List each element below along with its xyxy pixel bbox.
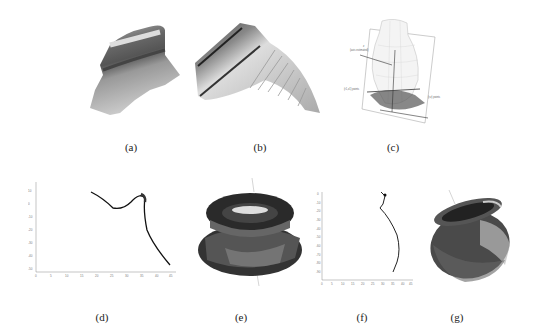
svg-text:-20: -20 <box>316 209 321 213</box>
svg-text:-40: -40 <box>28 254 33 258</box>
caption-b: (b) <box>240 141 280 153</box>
svg-text:25: 25 <box>110 274 114 278</box>
svg-text:45: 45 <box>409 282 413 286</box>
svg-text:20: 20 <box>361 282 365 286</box>
caption-c: (c) <box>373 141 413 153</box>
caption-g: (g) <box>437 311 477 323</box>
svg-text:-30: -30 <box>28 241 33 245</box>
svg-text:20: 20 <box>95 274 99 278</box>
svg-text:0: 0 <box>317 192 319 196</box>
sherd-a-image <box>85 10 185 125</box>
panel-b <box>190 18 330 118</box>
svg-text:35: 35 <box>140 274 144 278</box>
svg-text:-80: -80 <box>316 261 321 265</box>
svg-text:40: 40 <box>401 282 405 286</box>
svg-text:30: 30 <box>381 282 385 286</box>
svg-text:-50: -50 <box>28 267 33 271</box>
label-z: z <box>363 45 365 48</box>
svg-text:-60: -60 <box>316 244 321 248</box>
svg-text:40: 40 <box>155 274 159 278</box>
svg-text:30: 30 <box>125 274 129 278</box>
svg-text:0: 0 <box>321 282 323 286</box>
profile-chart-f: 0-10-20-30 -40-50-60-70 -80-90 051015 20… <box>315 190 415 290</box>
svg-text:15: 15 <box>80 274 84 278</box>
panel-f-chart: 0-10-20-30 -40-50-60-70 -80-90 051015 20… <box>315 190 415 290</box>
label-axis-estimated: (axis estimated) <box>350 48 368 52</box>
panel-d-chart: 100-10 -20-30-40-50 051015 20253035 4045 <box>28 180 178 280</box>
svg-text:10: 10 <box>28 189 32 193</box>
svg-text:15: 15 <box>351 282 355 286</box>
reconstructed-vessel-e <box>195 178 305 288</box>
reconstructed-pot-g <box>425 190 515 290</box>
svg-text:-10: -10 <box>316 201 321 205</box>
svg-text:-20: -20 <box>28 228 33 232</box>
svg-text:-40: -40 <box>316 227 321 231</box>
svg-text:0: 0 <box>35 274 37 278</box>
label-right-points: (r,z) points <box>428 95 441 99</box>
svg-text:-90: -90 <box>316 270 321 274</box>
profile-chart-d: 100-10 -20-30-40-50 051015 20253035 4045 <box>28 180 178 280</box>
caption-d: (d) <box>82 311 122 323</box>
svg-text:-70: -70 <box>316 253 321 257</box>
wireframe-diagram: z (axis estimated) (r1,z1) points (r,z) … <box>340 15 460 125</box>
caption-a: (a) <box>111 141 151 153</box>
panel-a <box>85 10 185 125</box>
svg-text:0: 0 <box>28 202 30 206</box>
svg-text:-30: -30 <box>316 218 321 222</box>
svg-text:-50: -50 <box>316 235 321 239</box>
svg-text:25: 25 <box>371 282 375 286</box>
svg-text:35: 35 <box>391 282 395 286</box>
svg-text:10: 10 <box>65 274 69 278</box>
svg-text:10: 10 <box>341 282 345 286</box>
panel-g <box>425 190 515 290</box>
caption-e: (e) <box>221 311 261 323</box>
caption-f: (f) <box>342 311 382 323</box>
panel-e <box>195 178 305 288</box>
label-left-points: (r1,z1) points <box>344 87 360 91</box>
svg-text:45: 45 <box>169 274 173 278</box>
svg-text:-10: -10 <box>28 215 33 219</box>
svg-text:5: 5 <box>331 282 333 286</box>
svg-text:5: 5 <box>50 274 52 278</box>
panel-c: z (axis estimated) (r1,z1) points (r,z) … <box>340 15 460 125</box>
sherd-b-image <box>190 18 330 118</box>
